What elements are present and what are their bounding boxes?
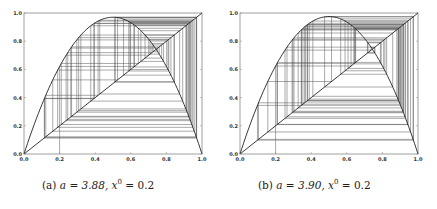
y-tick-label: 0.8 <box>229 38 238 44</box>
y-tick-label: 0.4 <box>13 95 22 101</box>
cobweb-lines <box>44 17 196 154</box>
x-tick-label: 0.2 <box>55 156 64 162</box>
caption-a-param: a = 3.88, <box>60 179 108 191</box>
panel-b: 0.00.20.40.60.81.00.00.20.40.60.81.0 (b)… <box>216 0 434 209</box>
y-tick-label: 0.4 <box>229 95 238 101</box>
y-tick-label: 0.2 <box>229 123 238 129</box>
y-tick-label: 0.0 <box>229 151 238 157</box>
cobweb-plot-a: 0.00.20.40.60.81.00.00.20.40.60.81.0 <box>0 0 218 170</box>
x-tick-label: 0.4 <box>91 156 100 162</box>
cobweb-plot-b: 0.00.20.40.60.81.00.00.20.40.60.81.0 <box>216 0 434 170</box>
caption-a-xval: = 0.2 <box>122 179 154 191</box>
x-tick-label: 0.6 <box>126 156 135 162</box>
caption-b: (b) a = 3.90, x0 = 0.2 <box>258 178 371 191</box>
x-tick-label: 0.6 <box>342 156 351 162</box>
y-tick-label: 1.0 <box>229 10 238 16</box>
caption-b-param: a = 3.90, <box>276 179 324 191</box>
x-tick-label: 0.4 <box>307 156 316 162</box>
y-tick-label: 0.2 <box>13 123 22 129</box>
x-tick-label: 1.0 <box>414 156 423 162</box>
y-tick-label: 0.8 <box>13 38 22 44</box>
caption-b-xval: = 0.2 <box>338 179 370 191</box>
caption-b-label: (b) <box>258 179 273 191</box>
y-tick-label: 0.6 <box>229 66 238 72</box>
x-tick-label: 0.2 <box>271 156 280 162</box>
y-tick-label: 1.0 <box>13 10 22 16</box>
y-tick-label: 0.0 <box>13 151 22 157</box>
y-tick-label: 0.6 <box>13 66 22 72</box>
x-tick-label: 0.8 <box>378 156 387 162</box>
x-tick-label: 0.8 <box>162 156 171 162</box>
caption-a: (a) a = 3.88, x0 = 0.2 <box>42 178 154 191</box>
cobweb-lines <box>257 17 413 154</box>
panel-a: 0.00.20.40.60.81.00.00.20.40.60.81.0 (a)… <box>0 0 218 209</box>
x-tick-label: 1.0 <box>198 156 207 162</box>
caption-a-label: (a) <box>42 179 56 191</box>
